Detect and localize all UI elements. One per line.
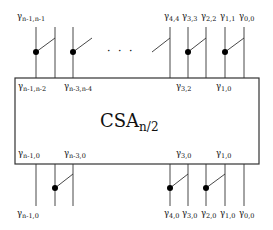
label-subscript: n-1,0	[23, 152, 40, 160]
label-subscript: 0,0	[244, 212, 254, 220]
top-label: γ2,2	[201, 12, 216, 23]
bottom-label: γ1,0	[220, 209, 235, 220]
label-subscript: 3,3	[187, 15, 197, 23]
label-subscript: 1,0	[221, 85, 231, 93]
inner-top-label: γ3,2	[176, 82, 191, 93]
inner-bottom-label: γn-1,0	[18, 149, 40, 160]
label-subscript: n-1,n-2	[23, 85, 46, 93]
top-label: γ3,3	[182, 12, 197, 23]
block-subscript: n/2	[139, 120, 158, 134]
top-label: γn-1,n-1	[17, 12, 45, 23]
label-subscript: n-3,0	[69, 152, 86, 160]
top-label: γ0,0	[239, 12, 254, 23]
label-subscript: 3,0	[181, 152, 191, 160]
label-subscript: 4,0	[169, 212, 179, 220]
label-subscript: 3,2	[181, 85, 191, 93]
label-subscript: 1,0	[221, 152, 231, 160]
block-title: CSAn/2	[100, 112, 159, 133]
label-subscript: 2,0	[206, 212, 216, 220]
label-subscript: 0,0	[244, 15, 254, 23]
inner-bottom-label: γ1,0	[216, 149, 231, 160]
label-subscript: 4,4	[169, 15, 179, 23]
bottom-label: γ2,0	[201, 209, 216, 220]
inner-bottom-label: γ3,0	[176, 149, 191, 160]
top-label: γ4,4	[164, 12, 179, 23]
bottom-label: γ0,0	[239, 209, 254, 220]
inner-bottom-label: γn-3,0	[64, 149, 86, 160]
inner-top-label: γ1,0	[216, 82, 231, 93]
inner-top-label: γn-3,n-4	[64, 82, 92, 93]
label-subscript: n-1,0	[22, 212, 39, 220]
top-label: γ1,1	[220, 12, 235, 23]
block-name: CSA	[100, 110, 139, 131]
label-subscript: n-3,n-4	[69, 85, 92, 93]
inner-top-label: γn-1,n-2	[18, 82, 46, 93]
label-subscript: 3,0	[187, 212, 197, 220]
bottom-label: γn-1,0	[17, 209, 39, 220]
label-subscript: 1,0	[225, 212, 235, 220]
label-subscript: 1,1	[225, 15, 235, 23]
bottom-label: γ4,0	[164, 209, 179, 220]
ellipsis: · · ·	[107, 46, 134, 57]
label-subscript: n-1,n-1	[22, 15, 45, 23]
label-subscript: 2,2	[206, 15, 216, 23]
bottom-label: γ3,0	[182, 209, 197, 220]
